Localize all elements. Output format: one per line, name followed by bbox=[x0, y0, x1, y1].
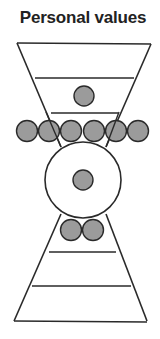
central-dot bbox=[73, 170, 93, 190]
middle-row-dot-6 bbox=[128, 121, 149, 142]
upper-band-dot bbox=[74, 86, 94, 106]
upper-funnel-top-edge bbox=[17, 43, 151, 44]
neck-dot-1 bbox=[61, 220, 82, 241]
lower-pyramid-right-edge bbox=[106, 214, 147, 321]
middle-row-dot-4 bbox=[84, 121, 105, 142]
lower-pyramid-left-edge bbox=[14, 214, 61, 321]
values-hourglass-diagram bbox=[0, 0, 160, 339]
middle-row-dot-1 bbox=[17, 121, 38, 142]
middle-row-dot-2 bbox=[39, 121, 60, 142]
central-circle-group bbox=[45, 142, 121, 218]
middle-row-dot-3 bbox=[61, 121, 82, 142]
lower-pyramid-base bbox=[14, 321, 147, 322]
neck-dot-2 bbox=[83, 220, 104, 241]
